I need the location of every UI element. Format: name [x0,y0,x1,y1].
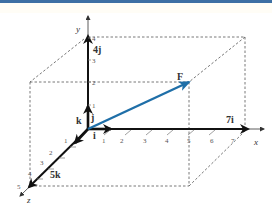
z-tick-5: 5 [17,183,21,191]
y-tick-3: 3 [92,57,96,65]
x-tick-2: 2 [120,137,124,145]
x-tick-1: 1 [102,137,106,145]
x-axis-label: x [253,137,258,147]
z-tick-1: 1 [64,137,68,145]
z-tick-4: 4 [28,170,32,178]
x-tick-4: 4 [165,137,169,145]
x-tick-5: 5 [187,137,191,145]
z-axis-label: z [26,195,31,205]
y-tick-4: 4 [92,35,96,43]
vector-F [88,82,189,129]
label-i: i [93,130,96,141]
vector-diagram: 1 2 3 4 5 6 7 1 2 3 4 1 2 3 4 5 y x z 4j… [0,0,272,214]
label-F: F [177,71,183,82]
x-tick-6: 6 [210,137,214,145]
label-4j: 4j [93,44,101,55]
x-ticks [104,130,215,135]
x-tick-3: 3 [143,137,147,145]
y-tick-1: 1 [92,102,96,110]
label-k: k [76,115,82,126]
x-tick-7: 7 [231,137,235,145]
z-tick-3: 3 [40,159,44,167]
z-tick-2: 2 [49,149,53,157]
label-7i: 7i [226,114,234,125]
label-5k: 5k [50,169,61,180]
label-j: j [90,112,94,123]
y-tick-2: 2 [92,79,96,87]
unit-k [75,129,88,143]
dashed-box [30,37,245,186]
y-axis-label: y [75,24,80,34]
